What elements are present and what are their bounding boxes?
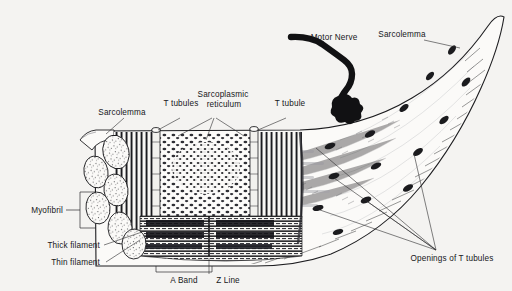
- label-z-line: Z Line: [216, 276, 240, 285]
- cut-end-region: [80, 127, 303, 261]
- label-thick-filament: Thick filament: [47, 241, 100, 250]
- muscle-fiber-diagram: Motor Nerve Sarcolemma Sarcolemma T tubu…: [0, 0, 512, 291]
- label-thin-filament: Thin filament: [51, 258, 100, 267]
- label-motor-nerve: Motor Nerve: [311, 33, 358, 42]
- t-tubule-mouth: [152, 128, 160, 133]
- label-reticulum: reticulum: [207, 100, 242, 109]
- label-t-tubule: T tubule: [275, 99, 306, 108]
- t-tubule-mouth: [250, 127, 258, 132]
- label-sarcoplasmic: Sarcoplasmic: [198, 90, 249, 99]
- label-sarcolemma-left: Sarcolemma: [98, 108, 146, 117]
- label-a-band: A Band: [170, 276, 198, 285]
- sarcoplasmic-reticulum-mesh: [172, 142, 240, 194]
- label-myofibril: Myofibril: [31, 206, 63, 215]
- label-openings-of-t-tubules: Openings of T tubules: [411, 254, 494, 263]
- label-t-tubules: T tubules: [164, 99, 199, 108]
- label-sarcolemma-right: Sarcolemma: [378, 30, 426, 39]
